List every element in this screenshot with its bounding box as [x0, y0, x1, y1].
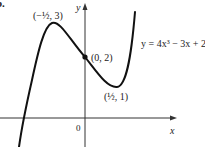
cubic-graph: b. y x 0 (−½, 3) (0, 2) (½, 1) y = 4x³ −…	[0, 0, 205, 147]
y-axis-arrow-icon	[83, 3, 88, 10]
local-min-label: (½, 1)	[104, 91, 128, 103]
local-max-label: (−½, 3)	[33, 10, 63, 22]
y-intercept-label: (0, 2)	[91, 52, 113, 64]
y-intercept-point	[82, 54, 87, 59]
equation-label: y = 4x³ − 3x + 2	[141, 38, 205, 49]
y-axis-label: y	[75, 2, 81, 13]
part-label: b.	[0, 0, 5, 9]
x-axis-arrow-icon	[170, 116, 177, 121]
origin-label: 0	[76, 123, 81, 133]
x-axis-label: x	[169, 125, 175, 136]
